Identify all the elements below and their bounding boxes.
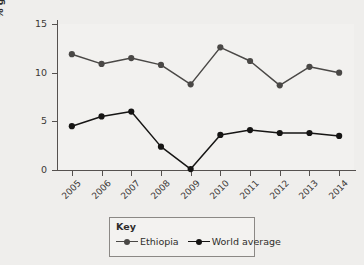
- y-tick-label: 5: [21, 116, 47, 126]
- x-tick-label: 2012: [263, 178, 291, 206]
- x-tick-label: 2005: [55, 178, 83, 206]
- data-point: [247, 58, 253, 64]
- legend-entry: Ethiopia: [116, 236, 179, 247]
- data-point: [188, 81, 194, 87]
- data-point: [306, 64, 312, 70]
- legend-entry: World average: [188, 236, 281, 247]
- x-tick: [161, 171, 162, 176]
- data-point: [336, 70, 342, 76]
- data-point: [247, 127, 253, 133]
- data-point: [98, 61, 104, 67]
- y-axis-title: % growth each year: [0, 0, 5, 18]
- data-point: [188, 166, 194, 172]
- data-point: [128, 55, 134, 61]
- legend-marker-icon: [188, 237, 210, 246]
- x-tick-label: 2009: [173, 178, 201, 206]
- legend-entry-list: EthiopiaWorld average: [116, 236, 254, 247]
- x-tick: [220, 171, 221, 176]
- x-tick: [339, 171, 340, 176]
- data-point: [306, 130, 312, 136]
- x-tick-label: 2008: [144, 178, 172, 206]
- x-tick-label: 2007: [114, 178, 142, 206]
- data-point: [277, 130, 283, 136]
- legend-title: Key: [116, 221, 254, 233]
- data-point: [128, 109, 134, 115]
- data-point: [217, 132, 223, 138]
- x-tick-label: 2014: [322, 178, 350, 206]
- data-point: [98, 113, 104, 119]
- x-tick: [309, 171, 310, 176]
- x-tick-label: 2013: [292, 178, 320, 206]
- data-point: [69, 51, 75, 57]
- x-tick-label: 2010: [203, 178, 231, 206]
- y-tick-label: 10: [21, 68, 47, 78]
- chart-page: 051015 200520062007200820092010201120122…: [0, 0, 364, 265]
- y-tick: [52, 170, 57, 171]
- series-line: [72, 47, 339, 85]
- series-line: [72, 112, 339, 169]
- series-layer: [57, 24, 354, 170]
- legend-marker-icon: [116, 237, 138, 246]
- data-point: [158, 144, 164, 150]
- x-tick: [102, 171, 103, 176]
- data-point: [277, 82, 283, 88]
- x-tick-label: 2011: [233, 178, 261, 206]
- x-tick: [250, 171, 251, 176]
- y-tick-label: 0: [21, 165, 47, 175]
- data-point: [217, 44, 223, 50]
- legend-label: World average: [212, 236, 281, 247]
- series-world-average: [69, 109, 343, 173]
- y-tick-label: 15: [21, 19, 47, 29]
- chart-legend: Key EthiopiaWorld average: [109, 217, 255, 257]
- data-point: [158, 62, 164, 68]
- x-tick: [131, 171, 132, 176]
- plot-area: [57, 24, 354, 170]
- x-tick: [72, 171, 73, 176]
- data-point: [69, 123, 75, 129]
- x-tick: [280, 171, 281, 176]
- x-tick-label: 2006: [84, 178, 112, 206]
- series-ethiopia: [69, 44, 343, 88]
- legend-label: Ethiopia: [140, 236, 179, 247]
- data-point: [336, 133, 342, 139]
